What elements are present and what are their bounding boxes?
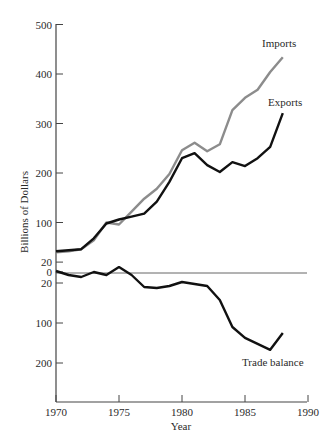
- trade-chart: 50040030020010020020100200 1970197519801…: [0, 0, 334, 445]
- exports-line: [56, 113, 283, 251]
- trade-balance-line: [56, 267, 283, 350]
- x-axis-title: Year: [171, 420, 192, 432]
- x-tick-label: 1990: [297, 406, 320, 418]
- y-tick-label: 100: [36, 317, 53, 329]
- exports-label: Exports: [268, 96, 302, 108]
- x-axis: 19701975198019851990: [45, 395, 320, 418]
- y-tick-label: 200: [36, 167, 53, 179]
- y-tick-label: 20: [41, 277, 53, 289]
- trade-balance-label: Trade balance: [242, 356, 304, 368]
- y-tick-label: 500: [36, 19, 53, 31]
- y-tick-label: 400: [36, 68, 53, 80]
- x-tick-label: 1975: [108, 406, 131, 418]
- y-tick-label: 200: [36, 357, 53, 369]
- y-tick-label: 300: [36, 118, 53, 130]
- y-axis: 50040030020010020020100200: [36, 19, 64, 403]
- x-tick-label: 1970: [45, 406, 68, 418]
- y-axis-title: Billions of Dollars: [18, 171, 30, 253]
- x-tick-label: 1985: [234, 406, 257, 418]
- x-tick-label: 1980: [171, 406, 194, 418]
- imports-label: Imports: [262, 37, 296, 49]
- y-tick-label: 100: [36, 217, 53, 229]
- imports-line: [56, 57, 283, 252]
